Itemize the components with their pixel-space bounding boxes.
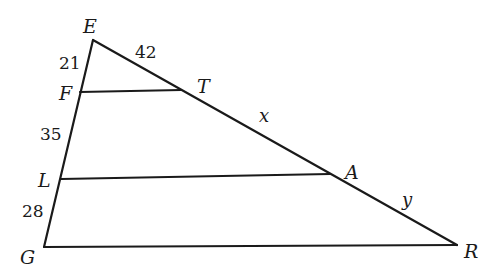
vertex-label-A: A: [343, 161, 359, 183]
measure-label-FL: 35: [40, 124, 62, 144]
triangle-diagram: E F T L A G R 21 42 35 28 x y: [0, 0, 496, 269]
measure-label-TA: x: [259, 105, 269, 126]
vertex-label-E: E: [82, 15, 97, 37]
measure-label-ET: 42: [135, 42, 157, 62]
vertex-label-R: R: [463, 240, 478, 262]
segment-ER: [93, 40, 457, 245]
segment-FT: [80, 90, 181, 92]
vertex-label-G: G: [20, 246, 35, 268]
segment-LA: [61, 174, 330, 179]
measure-label-EF: 21: [59, 53, 81, 73]
vertex-label-T: T: [197, 75, 211, 97]
measure-label-AR: y: [401, 189, 413, 210]
measure-label-LG: 28: [22, 201, 44, 221]
vertex-label-L: L: [37, 169, 51, 191]
segment-GR: [44, 245, 457, 247]
vertex-label-F: F: [58, 82, 73, 104]
